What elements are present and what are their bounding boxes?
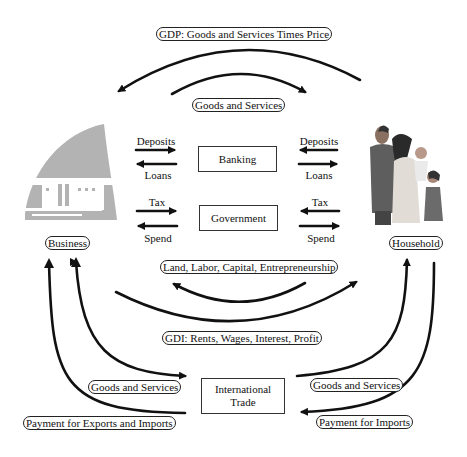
deposits-left-label: Deposits — [135, 135, 177, 147]
payment-imports-label: Payment for Imports — [316, 415, 413, 429]
tax-left-label: Tax — [137, 196, 177, 208]
spend-right-label: Spend — [300, 232, 342, 244]
loans-left-label: Loans — [137, 169, 179, 181]
gdp-label: GDP: Goods and Services Times Price — [156, 27, 332, 41]
goods-services-right-arrow — [297, 260, 407, 376]
goods-services-right-label: Goods and Services — [310, 378, 403, 392]
payment-exports-imports-label: Payment for Exports and Imports — [23, 416, 176, 430]
international-trade-line1: International — [215, 383, 271, 396]
goods-services-left-arrow — [76, 262, 185, 376]
international-trade-line2: Trade — [230, 396, 255, 409]
family-icon — [366, 123, 448, 233]
goods-services-top-arrow — [172, 74, 305, 94]
spend-left-label: Spend — [137, 232, 179, 244]
banking-node: Banking — [198, 146, 277, 172]
factors-arrow — [174, 283, 305, 302]
factors-label: Land, Labor, Capital, Entrepreneurship — [160, 260, 338, 274]
international-trade-node: International Trade — [201, 378, 285, 414]
loans-right-label: Loans — [298, 169, 340, 181]
office-building-icon — [22, 122, 120, 227]
household-node: Household — [389, 236, 443, 250]
goods-services-top-label: Goods and Services — [192, 98, 285, 112]
business-node: Business — [45, 236, 90, 250]
goods-services-left-label: Goods and Services — [88, 380, 181, 394]
tax-right-label: Tax — [300, 196, 340, 208]
gdi-label: GDI: Rents, Wages, Interest, Profit — [162, 331, 322, 345]
gdp-arrow — [119, 50, 360, 91]
deposits-right-label: Deposits — [298, 135, 340, 147]
government-node: Government — [199, 205, 278, 231]
